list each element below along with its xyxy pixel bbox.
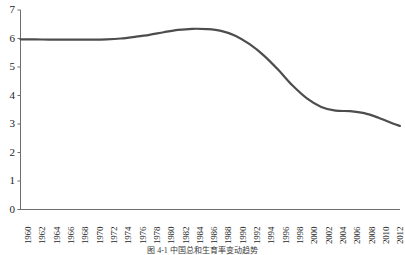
x-axis-tick-label: 1968: [81, 227, 90, 244]
x-axis-tick-label: 1982: [182, 227, 191, 244]
y-axis-tick-label: 2: [1, 147, 15, 158]
x-axis-tick-label: 1978: [153, 227, 162, 244]
x-axis-tick-label: 2006: [353, 227, 362, 244]
x-axis-tick-label: 1964: [53, 227, 62, 244]
y-axis-tick-label: 7: [1, 4, 15, 15]
figure-container: 01234567 1960196219641966196819701972197…: [0, 0, 405, 255]
y-axis-tick-label: 1: [1, 175, 15, 186]
x-axis-tick-label: 1994: [267, 227, 276, 244]
x-axis-tick-label: 1976: [139, 227, 148, 244]
x-axis-tick-label: 1970: [96, 227, 105, 244]
x-axis-tick-label: 2000: [310, 227, 319, 244]
x-axis-tick-label: 2008: [368, 227, 377, 244]
x-axis-tick-label: 1974: [124, 227, 133, 244]
x-axis-tick-label: 1962: [38, 227, 47, 244]
x-axis-tick-label: 1990: [239, 227, 248, 244]
x-axis-tick-label: 1998: [296, 227, 305, 244]
x-axis-tick-label: 1996: [282, 227, 291, 244]
x-axis-tick-label: 1966: [67, 227, 76, 244]
y-axis-tick-label: 6: [1, 33, 15, 44]
y-axis-tick-label: 4: [1, 90, 15, 101]
x-axis-tick-label: 2002: [325, 227, 334, 244]
y-axis-tick-label: 5: [1, 61, 15, 72]
figure-caption: 图 4-1 中国总和生育率变动趋势: [0, 246, 405, 255]
y-axis-tick-label: 3: [1, 118, 15, 129]
chart-plot-area: [0, 0, 405, 255]
x-axis-tick-label: 1984: [196, 227, 205, 244]
x-axis-tick-label: 2012: [396, 227, 405, 244]
x-axis-tick-label: 2010: [382, 227, 391, 244]
x-axis-tick-label: 1972: [110, 227, 119, 244]
x-axis-tick-label: 1988: [224, 227, 233, 244]
data-series-group: [21, 29, 401, 126]
x-axis-tick-label: 1960: [24, 227, 33, 244]
x-axis-tick-label: 2004: [339, 227, 348, 244]
y-axis-tick-label: 0: [1, 204, 15, 215]
line-series-total-fertility-rate: [21, 29, 401, 126]
x-axis-tick-label: 1980: [167, 227, 176, 244]
x-axis-tick-label: 1986: [210, 227, 219, 244]
x-axis-tick-label: 1992: [253, 227, 262, 244]
